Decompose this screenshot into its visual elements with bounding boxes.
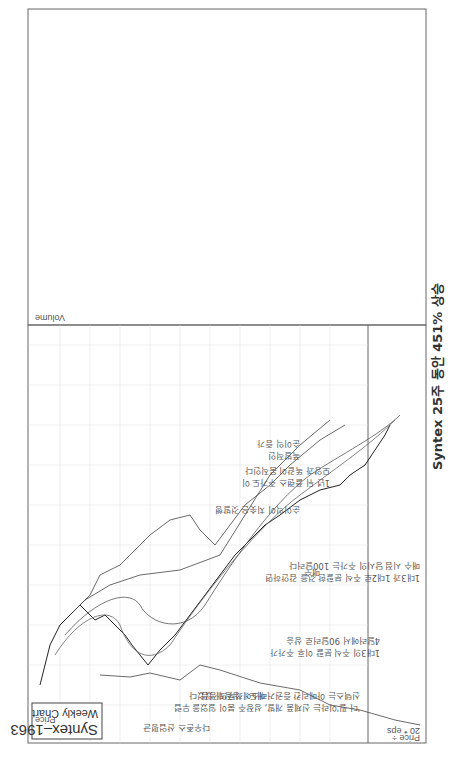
- moving-average-10wk: [55, 420, 395, 655]
- annotation-dow: 다우존스 산업평균: [143, 723, 210, 733]
- annotation-earnings-spike: 순이익이 치솟은 것발행: [215, 505, 300, 515]
- volume-panel-frame: [28, 9, 426, 325]
- annotation-intro-1: '더 필'이라는 신제품 개발, 성장주 붐이 일었을 무렵: [174, 703, 360, 713]
- svg-text:20 * eps: 20 * eps: [386, 726, 420, 736]
- annotation-plans-1: 1년 뒤 플랜스 주가도 이: [242, 478, 330, 488]
- right-axis: Price: [35, 715, 56, 725]
- annotation-split-1: 1대3의 주식 분할 이후 주가가: [270, 648, 380, 658]
- annotation-sell: 매도: 최후의 정점: [201, 691, 265, 701]
- annotation-split2-2: 매수 시점 당시의 주가는 100달러다: [289, 561, 420, 571]
- grid: [28, 325, 368, 743]
- price-panel-frame: [28, 325, 426, 743]
- volume-axis-label: Volume: [35, 313, 65, 323]
- annotation-plans-2: 모양과 똑같이 움직인다: [245, 466, 330, 476]
- annotation-split-2: 4달러에서 90달러로 상승: [286, 636, 380, 646]
- annotation-explosive-2: 순이익 증가: [257, 439, 300, 449]
- stock-chart: Syntex–1963 Weekly Chart Price ÷ 20 * ep…: [0, 0, 450, 765]
- moving-average-30wk: [65, 415, 400, 635]
- svg-text:Price: Price: [35, 715, 56, 725]
- left-axis: Price ÷ 20 * eps: [386, 726, 420, 743]
- chart-stage: Syntex–1963 Weekly Chart Price ÷ 20 * ep…: [0, 0, 450, 765]
- annotation-explosive-1: 폭발적인: [268, 451, 300, 461]
- annotation-split2-1: 1대3과 1대2로 주식 분할한 것을 감안하면: [265, 573, 420, 583]
